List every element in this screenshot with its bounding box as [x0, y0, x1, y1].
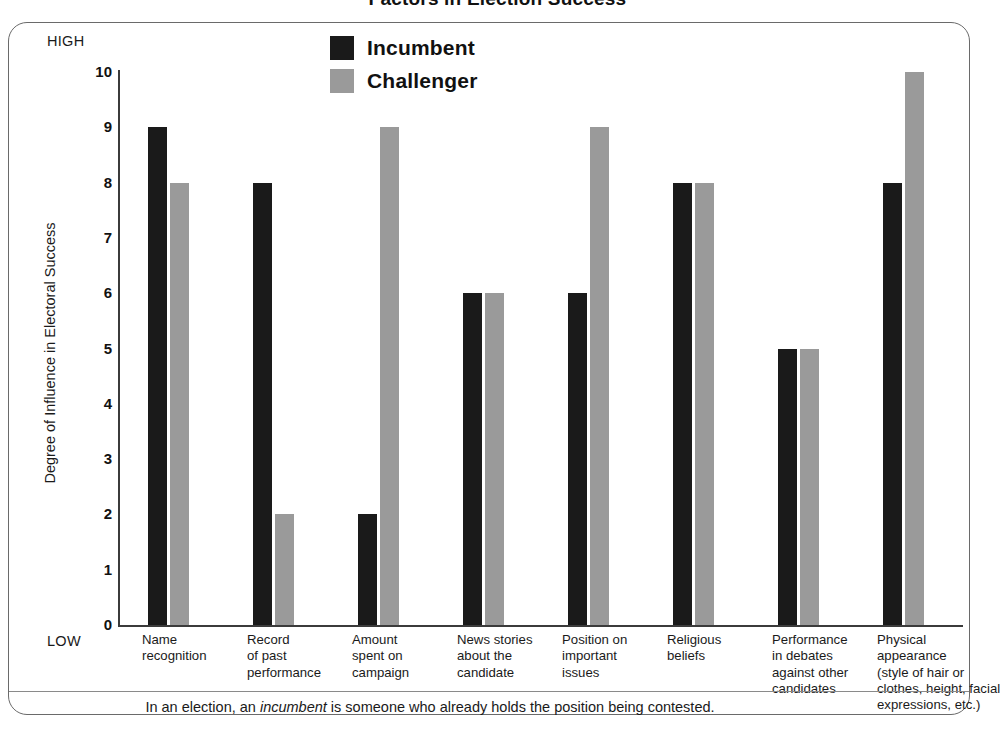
legend-swatch-icon: [330, 69, 354, 93]
footnote-prefix: In an election, an: [145, 699, 259, 715]
footnote-suffix: is someone who already holds the positio…: [327, 699, 715, 715]
legend-swatch-icon: [330, 36, 354, 60]
footnote-divider: [9, 691, 969, 692]
legend-label: Challenger: [367, 69, 478, 93]
legend-label: Incumbent: [367, 36, 475, 60]
legend-item: Challenger: [330, 69, 550, 93]
footnote: In an election, an incumbent is someone …: [0, 699, 860, 715]
legend: IncumbentChallenger: [330, 36, 550, 102]
chart-frame: [8, 22, 970, 715]
footnote-emphasis: incumbent: [260, 699, 327, 715]
chart-title: Factors in Election Success: [0, 0, 995, 10]
legend-item: Incumbent: [330, 36, 550, 60]
